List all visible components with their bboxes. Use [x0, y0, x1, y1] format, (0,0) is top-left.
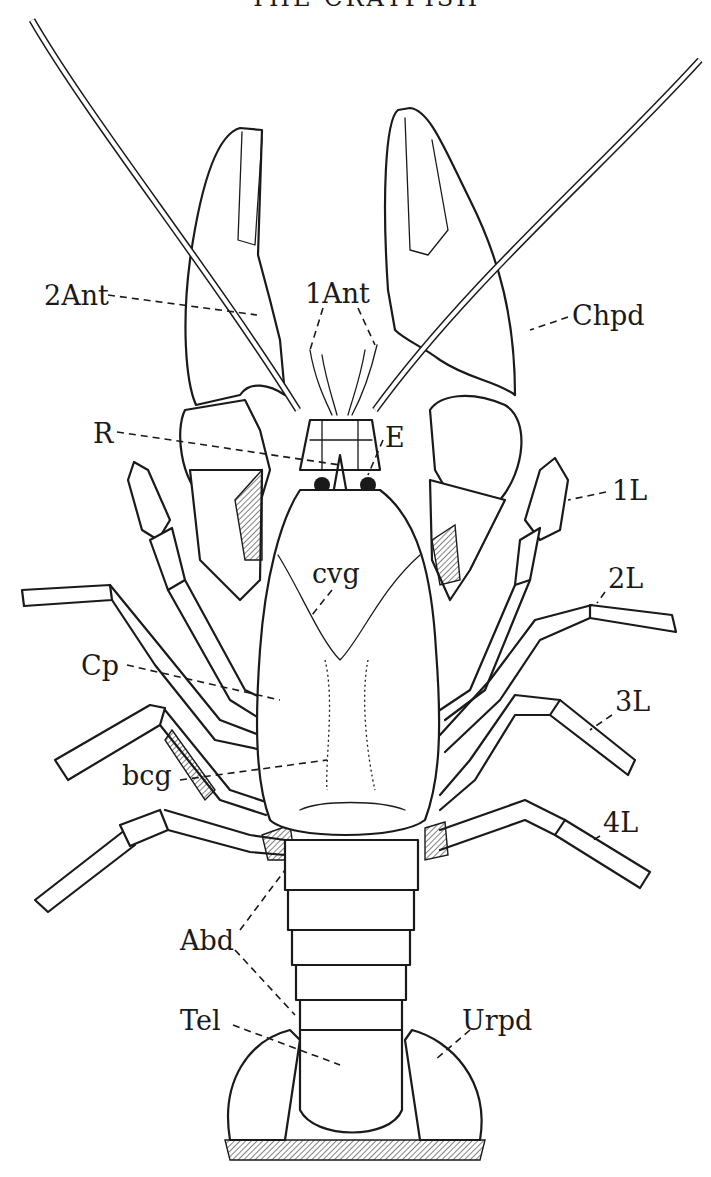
tail-fan	[225, 1030, 485, 1160]
label-1l: 1L	[612, 475, 647, 506]
second-antennae	[32, 20, 700, 410]
label-r: R	[93, 418, 114, 449]
label-tel: Tel	[180, 1005, 221, 1036]
label-urpd: Urpd	[462, 1005, 532, 1036]
label-e: E	[385, 422, 405, 453]
figure-title: THE CRAYFISH	[250, 0, 480, 12]
label-1ant: 1Ant	[305, 278, 370, 309]
label-cp: Cp	[81, 650, 119, 681]
label-chpd: Chpd	[572, 300, 645, 331]
crayfish-diagram: THE CRAYFISH	[0, 0, 711, 1177]
abdomen	[285, 840, 418, 1030]
label-cvg: cvg	[312, 558, 360, 589]
label-3l: 3L	[615, 686, 650, 717]
head	[300, 420, 380, 500]
label-4l: 4L	[603, 807, 638, 838]
label-abd: Abd	[179, 925, 234, 956]
label-bcg: bcg	[122, 760, 172, 791]
label-2ant: 2Ant	[44, 280, 109, 311]
label-2l: 2L	[608, 563, 643, 594]
carapace	[257, 490, 439, 835]
first-antennae	[310, 345, 377, 415]
